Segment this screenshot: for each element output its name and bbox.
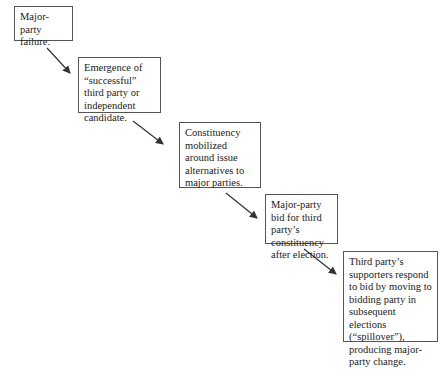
step-box-spillover-change: Third party’s supporters respond to bid … <box>343 251 438 342</box>
step-text: Third party’s supporters respond to bid … <box>349 256 432 367</box>
arrow-3-to-4 <box>226 193 257 218</box>
step-box-major-party-bid: Major-party bid for third party’s consti… <box>265 194 338 244</box>
step-text: Emergence of “successful” third party or… <box>84 62 142 123</box>
step-box-constituency-mobilized: Constituency mobilized around issue alte… <box>179 122 261 188</box>
step-text: Major-party bid for third party’s consti… <box>271 199 329 260</box>
step-box-major-party-failure: Major-party failure. <box>14 6 73 41</box>
arrow-1-to-2 <box>47 48 70 73</box>
arrow-2-to-3 <box>133 121 163 144</box>
step-text: Major-party failure. <box>20 11 50 47</box>
step-box-third-party-emergence: Emergence of “successful” third party or… <box>78 57 161 113</box>
step-text: Constituency mobilized around issue alte… <box>185 127 244 188</box>
